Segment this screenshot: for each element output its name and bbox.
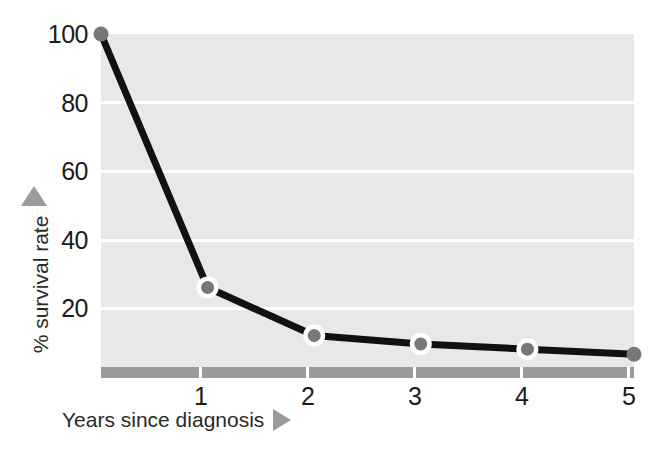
data-point-marker	[414, 338, 427, 351]
data-point-marker	[521, 343, 534, 356]
data-point-marker	[627, 347, 642, 362]
data-point-marker	[308, 329, 321, 342]
survival-rate-line-chart: 100 80 60 40 20 % survival rate 1 2 3 4 …	[0, 0, 658, 449]
data-point-marker	[94, 27, 109, 42]
data-point-marker	[201, 281, 214, 294]
survival-markers	[94, 27, 642, 362]
survival-line	[101, 34, 634, 354]
data-series	[0, 0, 658, 449]
